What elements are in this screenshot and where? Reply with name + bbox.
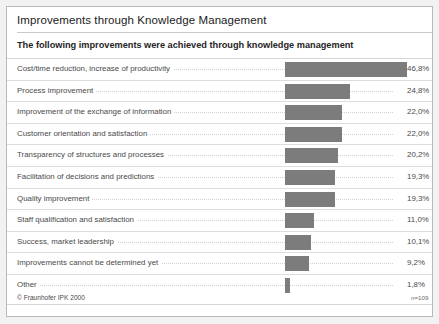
- category-label: Staff qualification and satisfaction: [17, 215, 137, 224]
- chart-subtitle: The following improvements were achieved…: [7, 33, 432, 51]
- value-label: 9,2%: [407, 258, 425, 267]
- bar: [285, 256, 309, 271]
- page-title: Improvements through Knowledge Managemen…: [17, 13, 432, 27]
- chart-card: Improvements through Knowledge Managemen…: [6, 6, 433, 317]
- value-label: 10,1%: [407, 237, 429, 246]
- bar: [285, 148, 338, 163]
- bar: [285, 192, 335, 207]
- bar-row: Staff qualification and satisfaction11,0…: [7, 210, 432, 232]
- bar: [285, 62, 407, 77]
- bar-chart-plot: Cost/time reduction, increase of product…: [7, 58, 432, 305]
- value-label: 22,0%: [407, 107, 429, 116]
- bar-row: Other1,8%© Fraunhofer IPK 2000n=109: [7, 275, 432, 305]
- bar-row: Improvements cannot be determined yet9,2…: [7, 253, 432, 275]
- category-label: Success, market leadership: [17, 237, 117, 246]
- bar: [285, 170, 335, 185]
- bar: [285, 127, 342, 142]
- chart-header: Improvements through Knowledge Managemen…: [7, 7, 432, 33]
- sample-size-label: n=109: [411, 294, 428, 301]
- category-label: Process improvement: [17, 86, 96, 95]
- bar: [285, 235, 311, 250]
- leader-line: [17, 285, 393, 286]
- bar-row: Quality improvement19,3%: [7, 189, 432, 211]
- value-label: 1,8%: [407, 280, 425, 289]
- bar-row: Facilitation of decisions and prediction…: [7, 167, 432, 189]
- value-label: 46,8%: [407, 64, 429, 73]
- category-label: Facilitation of decisions and prediction…: [17, 172, 157, 181]
- bar-row: Success, market leadership10,1%: [7, 232, 432, 254]
- value-label: 20,2%: [407, 150, 429, 159]
- category-label: Other: [17, 280, 40, 289]
- bar: [285, 84, 350, 99]
- category-label: Cost/time reduction, increase of product…: [17, 64, 173, 73]
- value-label: 11,0%: [407, 215, 429, 224]
- bar: [285, 278, 290, 293]
- bar-row: Transparency of structures and processes…: [7, 145, 432, 167]
- copyright-notice: © Fraunhofer IPK 2000: [17, 294, 85, 301]
- category-label: Customer orientation and satisfaction: [17, 129, 150, 138]
- category-label: Improvements cannot be determined yet: [17, 258, 161, 267]
- bar-row: Customer orientation and satisfaction22,…: [7, 124, 432, 146]
- bar-row: Process improvement24,8%: [7, 81, 432, 103]
- category-label: Quality improvement: [17, 194, 92, 203]
- value-label: 22,0%: [407, 129, 429, 138]
- bar: [285, 105, 342, 120]
- category-label: Transparency of structures and processes: [17, 150, 167, 159]
- value-label: 19,3%: [407, 172, 429, 181]
- bar-row: Cost/time reduction, increase of product…: [7, 59, 432, 81]
- category-label: Improvement of the exchange of informati…: [17, 107, 174, 116]
- bar-row: Improvement of the exchange of informati…: [7, 102, 432, 124]
- bar: [285, 213, 314, 228]
- value-label: 19,3%: [407, 194, 429, 203]
- value-label: 24,8%: [407, 86, 429, 95]
